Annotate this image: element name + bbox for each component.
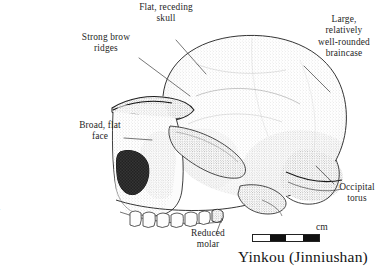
annotation-reduced-molar: Reduced molar [172,228,244,251]
annotation-flat-receding-skull: Flat, receding skull [110,2,222,25]
figure-caption: Yinkou (Jinniushan) [238,248,368,266]
annotation-broad-flat-face: Broad, flat face [54,120,146,143]
annotation-strong-brow-ridges: Strong brow ridges [58,32,154,55]
scale-bar [252,234,320,242]
figure-page: Flat, receding skull Strong brow ridges … [0,0,388,272]
scale-segment [286,235,303,241]
scale-segment [270,235,287,241]
scale-unit-label: cm [316,221,328,232]
body-paragraph-clipped: cs of ar- in East Asia his figure ns fro… [0,158,60,231]
annotation-large-braincase: Large, relatively well-rounded braincase [300,14,388,60]
annotation-occipital-torus: Occipital torus [326,182,388,205]
scale-segment [253,235,270,241]
scale-segment [303,235,320,241]
